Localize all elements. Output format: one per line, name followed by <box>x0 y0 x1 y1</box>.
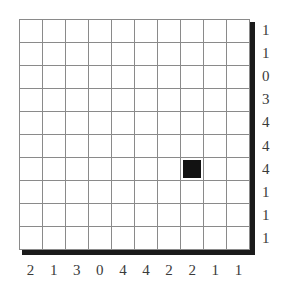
grid-cell[interactable] <box>89 66 112 89</box>
grid-cell[interactable] <box>20 158 43 181</box>
grid-cell[interactable] <box>135 66 158 89</box>
puzzle-grid[interactable] <box>19 19 250 250</box>
grid-cell[interactable] <box>158 112 181 135</box>
grid-cell[interactable] <box>227 158 250 181</box>
grid-cell[interactable] <box>66 20 89 43</box>
grid-cell[interactable] <box>43 204 66 227</box>
grid-cell[interactable] <box>158 20 181 43</box>
grid-cell[interactable] <box>204 20 227 43</box>
grid-cell[interactable] <box>112 204 135 227</box>
grid-cell[interactable] <box>66 204 89 227</box>
grid-cell[interactable] <box>112 43 135 66</box>
grid-cell[interactable] <box>158 66 181 89</box>
grid-cell[interactable] <box>66 181 89 204</box>
grid-cell[interactable] <box>43 66 66 89</box>
grid-cell[interactable] <box>112 135 135 158</box>
grid-cell[interactable] <box>204 181 227 204</box>
grid-cell[interactable] <box>20 43 43 66</box>
grid-cell[interactable] <box>20 66 43 89</box>
grid-cell[interactable] <box>158 227 181 250</box>
grid-cell[interactable] <box>204 43 227 66</box>
grid-cell[interactable] <box>20 181 43 204</box>
grid-cell[interactable] <box>20 112 43 135</box>
grid-cell[interactable] <box>227 135 250 158</box>
grid-cell[interactable] <box>43 158 66 181</box>
grid-cell[interactable] <box>158 89 181 112</box>
grid-cell[interactable] <box>89 112 112 135</box>
grid-cell[interactable] <box>66 43 89 66</box>
grid-cell[interactable] <box>66 66 89 89</box>
grid-cell[interactable] <box>43 20 66 43</box>
grid-cell[interactable] <box>181 181 204 204</box>
grid-cell[interactable] <box>227 227 250 250</box>
grid-cell[interactable] <box>181 227 204 250</box>
grid-cell[interactable] <box>89 43 112 66</box>
grid-cell[interactable] <box>181 89 204 112</box>
grid-cell[interactable] <box>89 89 112 112</box>
grid-cell[interactable] <box>158 135 181 158</box>
grid-cell[interactable] <box>43 89 66 112</box>
grid-cell[interactable] <box>89 181 112 204</box>
grid-cell[interactable] <box>89 158 112 181</box>
grid-cell[interactable] <box>158 158 181 181</box>
grid-cell[interactable] <box>112 20 135 43</box>
grid-cell[interactable] <box>89 135 112 158</box>
grid-cell[interactable] <box>112 227 135 250</box>
grid-cell[interactable] <box>135 135 158 158</box>
grid-cell[interactable] <box>66 135 89 158</box>
grid-cell[interactable] <box>204 112 227 135</box>
grid-cell[interactable] <box>135 89 158 112</box>
grid-cell[interactable] <box>158 204 181 227</box>
grid-cell[interactable] <box>204 227 227 250</box>
grid-cell-filled[interactable] <box>181 158 204 181</box>
grid-cell[interactable] <box>227 181 250 204</box>
grid-cell[interactable] <box>204 89 227 112</box>
grid-cell[interactable] <box>135 158 158 181</box>
grid-cell[interactable] <box>112 158 135 181</box>
grid-cell[interactable] <box>158 43 181 66</box>
grid-cell[interactable] <box>181 204 204 227</box>
grid-cell[interactable] <box>135 112 158 135</box>
grid-cell[interactable] <box>135 181 158 204</box>
grid-cell[interactable] <box>227 89 250 112</box>
grid-cell[interactable] <box>20 135 43 158</box>
grid-cell[interactable] <box>20 89 43 112</box>
grid-cell[interactable] <box>227 20 250 43</box>
grid-cell[interactable] <box>112 181 135 204</box>
grid-cell[interactable] <box>181 20 204 43</box>
grid-cell[interactable] <box>135 20 158 43</box>
grid-cell[interactable] <box>181 135 204 158</box>
grid-cell[interactable] <box>227 112 250 135</box>
grid-cell[interactable] <box>204 204 227 227</box>
grid-cell[interactable] <box>43 135 66 158</box>
grid-cell[interactable] <box>181 112 204 135</box>
grid-cell[interactable] <box>20 20 43 43</box>
grid-cell[interactable] <box>43 181 66 204</box>
grid-cell[interactable] <box>227 204 250 227</box>
grid-cell[interactable] <box>89 227 112 250</box>
grid-cell[interactable] <box>112 112 135 135</box>
grid-cell[interactable] <box>89 204 112 227</box>
grid-cell[interactable] <box>204 135 227 158</box>
grid-cell[interactable] <box>89 20 112 43</box>
grid-cell[interactable] <box>112 66 135 89</box>
grid-cell[interactable] <box>43 227 66 250</box>
grid-cell[interactable] <box>158 181 181 204</box>
grid-cell[interactable] <box>66 89 89 112</box>
grid-cell[interactable] <box>20 227 43 250</box>
grid-cell[interactable] <box>43 43 66 66</box>
grid-cell[interactable] <box>135 204 158 227</box>
grid-cell[interactable] <box>181 66 204 89</box>
grid-cell[interactable] <box>181 43 204 66</box>
grid-cell[interactable] <box>43 112 66 135</box>
grid-cell[interactable] <box>204 158 227 181</box>
grid-cell[interactable] <box>66 227 89 250</box>
grid-cell[interactable] <box>66 112 89 135</box>
grid-cell[interactable] <box>66 158 89 181</box>
grid-cell[interactable] <box>112 89 135 112</box>
grid-cell[interactable] <box>135 227 158 250</box>
grid-cell[interactable] <box>204 66 227 89</box>
grid-cell[interactable] <box>227 43 250 66</box>
grid-cell[interactable] <box>135 43 158 66</box>
grid-cell[interactable] <box>227 66 250 89</box>
